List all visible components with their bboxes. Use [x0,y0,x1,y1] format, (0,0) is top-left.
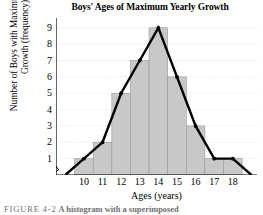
y-axis-label-wrapper: Number of Boys with Maximum Yearly Growt… [5,0,35,117]
y-tick-label: 2 [40,137,52,147]
frequency-polygon-point [82,157,86,161]
y-tick-label: 9 [40,23,52,33]
frequency-polygon-point [212,157,216,161]
y-axis-tick-labels: 987654321 [38,18,52,175]
frequency-polygon-point [231,157,235,161]
histogram-bar [186,126,205,175]
y-tick-label: 1 [40,154,52,164]
x-axis-tick-labels: 101112131415161718 [56,176,257,190]
frequency-polygon-point [194,124,198,128]
figure-caption-text: A histogram with a superimposed [59,205,179,214]
histogram-bar [224,159,243,175]
x-tick-label: 13 [131,176,149,187]
histogram-bar [149,28,168,175]
y-tick-label: 4 [40,105,52,115]
x-tick-label: 15 [168,176,186,187]
histogram-bar [112,93,131,175]
figure-caption: FIGURE 4-2 A histogram with a superimpos… [4,205,263,215]
frequency-polygon-point [138,59,142,63]
x-tick-label: 16 [187,176,205,187]
x-tick-label: 17 [205,176,223,187]
frequency-polygon-point [101,140,105,144]
frequency-polygon-point [156,26,160,30]
y-tick-label: 6 [40,72,52,82]
figure-container: Boys' Ages of Maximum Yearly Growth Numb… [0,0,263,215]
chart-title: Boys' Ages of Maximum Yearly Growth [38,2,262,13]
frequency-polygon-point [119,91,123,95]
y-tick-label: 3 [40,121,52,131]
figure-number: FIGURE 4-2 [4,205,57,214]
y-tick-label: 7 [40,56,52,66]
histogram-bar [75,159,94,175]
histogram-bar [130,61,149,175]
plot-area [56,18,257,175]
x-tick-label: 14 [149,176,167,187]
histogram-bar [205,159,224,175]
y-axis-label: Number of Boys with Maximum Yearly Growt… [9,0,32,117]
frequency-polygon-point [175,75,179,79]
x-tick-label: 10 [75,176,93,187]
x-tick-label: 18 [224,176,242,187]
x-tick-label: 11 [94,176,112,187]
y-tick-label: 5 [40,88,52,98]
x-axis-label: Ages (years) [56,190,257,201]
x-tick-label: 12 [112,176,130,187]
y-tick-label: 8 [40,39,52,49]
histogram-svg [56,18,257,175]
